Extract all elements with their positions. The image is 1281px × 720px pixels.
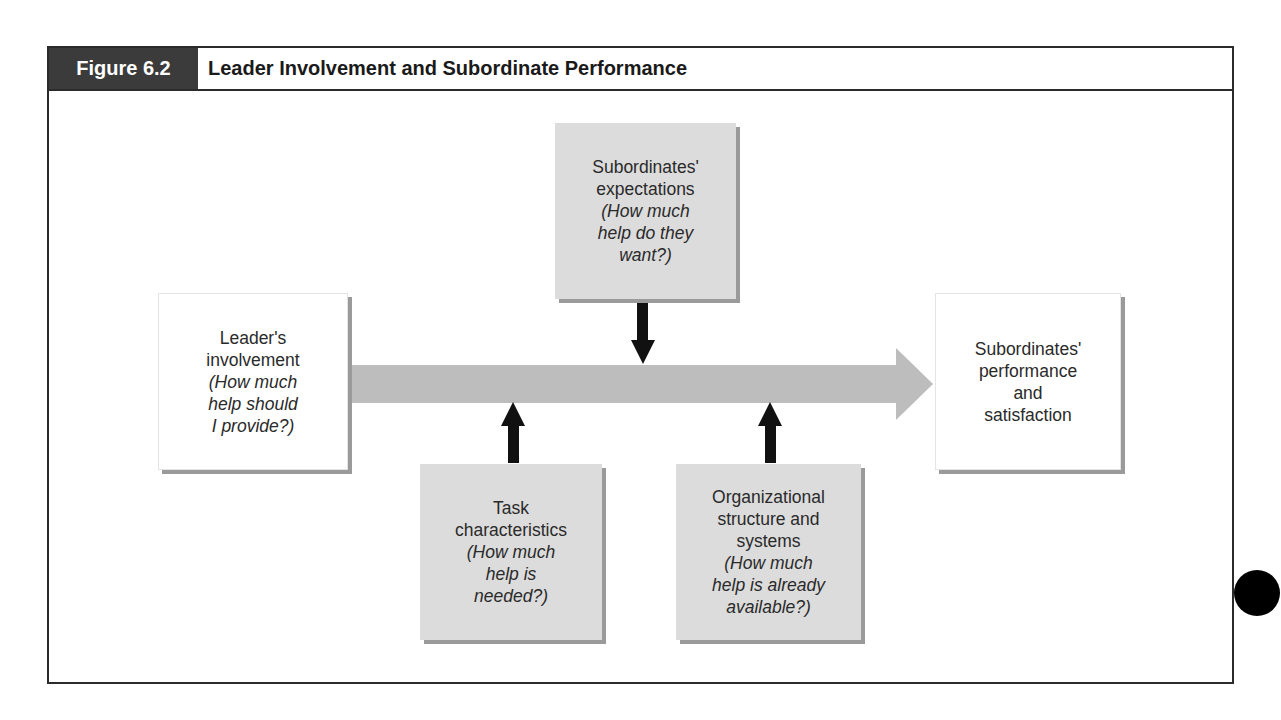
node-label: satisfaction [984, 404, 1072, 426]
node-label: Task [493, 497, 529, 519]
node-label: Subordinates' [975, 338, 1081, 360]
node-label: performance [979, 360, 1077, 382]
node-label: expectations [596, 178, 694, 200]
node-leader-involvement: Leader's involvement (How much help shou… [158, 293, 348, 470]
node-label: involvement [206, 349, 299, 371]
node-question: help should [208, 393, 298, 415]
node-question: (How much [209, 371, 298, 393]
arrow-up-shaft [508, 425, 519, 463]
figure-label: Figure 6.2 [49, 48, 198, 89]
node-question: (How much [601, 200, 690, 222]
node-label: characteristics [455, 519, 567, 541]
node-label: and [1013, 382, 1042, 404]
node-subordinates-expectations: Subordinates' expectations (How much hel… [555, 123, 736, 299]
page-marker-dot [1234, 570, 1280, 616]
node-label: systems [736, 530, 800, 552]
node-label: structure and [717, 508, 819, 530]
figure-title: Leader Involvement and Subordinate Perfo… [198, 57, 687, 80]
node-question: help is [486, 563, 537, 585]
node-question: help do they [598, 222, 693, 244]
node-task-characteristics: Task characteristics (How much help is n… [420, 464, 602, 640]
arrow-up-icon [758, 402, 782, 426]
arrow-up-icon [501, 402, 525, 426]
node-question: needed?) [474, 585, 548, 607]
arrow-down-shaft [637, 303, 648, 341]
arrow-up-shaft [765, 425, 776, 463]
arrow-down-icon [631, 340, 655, 364]
node-question: (How much [724, 552, 813, 574]
figure-header: Figure 6.2 Leader Involvement and Subord… [49, 48, 1232, 91]
main-arrow-head [896, 348, 933, 420]
node-question: I provide?) [212, 415, 295, 437]
node-label: Subordinates' [592, 156, 698, 178]
node-label: Organizational [712, 486, 825, 508]
node-question: available?) [726, 596, 811, 618]
node-label: Leader's [220, 327, 287, 349]
node-question: want?) [619, 244, 672, 266]
main-arrow-shaft [350, 365, 897, 403]
node-question: (How much [467, 541, 556, 563]
node-subordinates-performance: Subordinates' performance and satisfacti… [935, 293, 1121, 470]
node-question: help is already [712, 574, 825, 596]
node-organizational-structure: Organizational structure and systems (Ho… [676, 464, 861, 640]
